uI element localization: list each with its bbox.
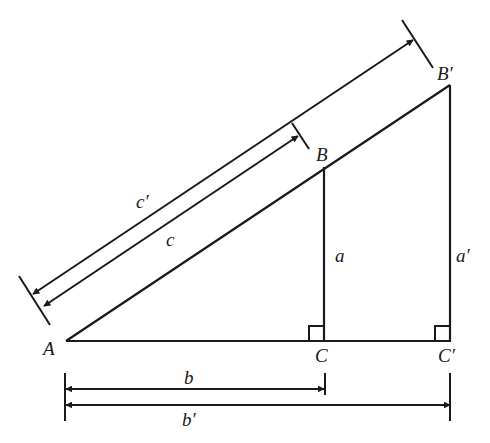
dimension-c: [44, 136, 298, 306]
label-side-c-prime: c′: [136, 191, 149, 212]
tick-c-end: [292, 123, 309, 149]
right-angle-marker-C: [309, 326, 324, 341]
label-side-b: b: [184, 367, 194, 388]
label-vertex-A: A: [41, 338, 55, 359]
label-vertex-C-prime: C′: [438, 345, 456, 366]
label-vertex-C: C: [315, 345, 328, 366]
tick-c-start: [19, 276, 50, 325]
label-side-a: a: [335, 245, 345, 266]
label-side-a-prime: a′: [456, 245, 471, 266]
label-vertex-B: B: [316, 144, 328, 165]
right-angle-marker-C-prime: [435, 326, 450, 341]
similar-triangles-diagram: A B C B′ C′ a a′ c c′ b b′: [0, 0, 490, 443]
label-vertex-B-prime: B′: [437, 63, 454, 84]
label-side-b-prime: b′: [182, 409, 197, 430]
dimension-c-prime: [33, 40, 413, 294]
hypotenuse-AB-prime: [66, 85, 450, 341]
label-side-c: c: [166, 229, 175, 250]
